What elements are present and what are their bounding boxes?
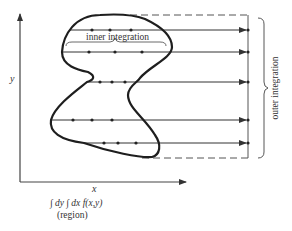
sample-point [98,80,101,83]
sample-point [90,118,93,121]
region-label: (region) [57,210,88,221]
sample-point [246,118,249,121]
inner-integration-label: inner integration [86,32,149,42]
sample-points [71,28,249,144]
sample-point [134,141,137,144]
sample-point [123,80,126,83]
x-axis-label: x [91,183,97,194]
sample-point [87,50,90,53]
sample-point [113,50,116,53]
sample-point [246,80,249,83]
outer-integration-label: outer integration [270,56,280,119]
integral-formula: ∫ dy ∫ dx f(x,y) [49,198,102,209]
sample-point [102,141,105,144]
sample-point [71,118,74,121]
sample-point [110,80,113,83]
sample-point [116,141,119,144]
outer-brace [258,18,268,158]
double-integral-diagram: y x inner integration [0,0,292,231]
sample-point [246,28,249,31]
sample-point [110,118,113,121]
sample-point [246,50,249,53]
sample-point [140,50,143,53]
y-axis-label: y [9,73,15,84]
sample-point [246,141,249,144]
